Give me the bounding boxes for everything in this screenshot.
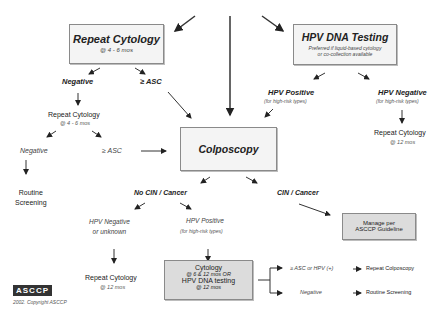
hpv-neg-unknown-line1: HPV Negative bbox=[89, 217, 130, 227]
negative-label-3: Negative bbox=[300, 289, 322, 295]
hpv-positive-sub: (for high-risk types) bbox=[264, 98, 307, 104]
manage-line2: ASCCP Guideline bbox=[343, 226, 415, 232]
repeat-cytology-title: Repeat Cytology bbox=[70, 33, 163, 45]
followup-line4: @ 12 mos bbox=[165, 284, 252, 290]
colposcopy-title: Colposcopy bbox=[181, 143, 276, 155]
manage-box: Manage per ASCCP Guideline bbox=[342, 213, 416, 240]
asc-or-hpv-label: ≥ ASC or HPV (+) bbox=[290, 265, 333, 271]
hpv-negative-sub: (for high-risk types) bbox=[376, 98, 419, 104]
asccp-logo: ASCCP bbox=[13, 285, 52, 296]
followup-line3: HPV DNA testing bbox=[165, 277, 252, 284]
asc-label-1: ≥ ASC bbox=[140, 77, 162, 86]
routine-line: Routine bbox=[15, 188, 47, 198]
routine-screening-1: Routine Screening bbox=[15, 188, 47, 208]
hpv-neg-unknown-line2: or unknown bbox=[89, 227, 130, 237]
followup-line1: Cytology bbox=[165, 264, 252, 271]
hpv-positive-label: HPV Positive bbox=[268, 88, 314, 97]
copyright-text: 2002. Copyright ASCCP bbox=[13, 299, 67, 305]
screening-line: Screening bbox=[15, 198, 47, 208]
cin-label: CIN / Cancer bbox=[277, 189, 319, 196]
repeat-cytology-2-sub: @ 4 - 6 mos bbox=[60, 120, 90, 126]
hpv-negative-label: HPV Negative bbox=[378, 88, 427, 97]
repeat-cytology-sub: @ 4 - 6 mos bbox=[70, 47, 163, 53]
repeat-cytology-12b-sub: @ 12 mos bbox=[100, 284, 125, 290]
colposcopy-box: Colposcopy bbox=[180, 127, 277, 171]
repeat-cytology-box: Repeat Cytology @ 4 - 6 mos bbox=[69, 24, 164, 64]
hpv-pos-2-label: HPV Positive bbox=[186, 217, 224, 224]
repeat-colposcopy-label: Repeat Colposcopy bbox=[366, 265, 414, 271]
hpv-dna-testing-box: HPV DNA Testing Preferred if liquid-base… bbox=[293, 24, 397, 65]
negative-label-1: Negative bbox=[62, 77, 93, 86]
repeat-cytology-12b-label: Repeat Cytology bbox=[85, 274, 137, 281]
hpv-dna-testing-sub2: or co-collection available bbox=[294, 51, 396, 57]
repeat-cytology-12-label: Repeat Cytology bbox=[374, 129, 426, 136]
hpv-dna-testing-title: HPV DNA Testing bbox=[294, 31, 396, 43]
hpv-pos-2-sub: (for high-risk types) bbox=[180, 228, 223, 234]
negative-label-2: Negative bbox=[20, 147, 48, 154]
followup-box: Cytology @ 6 & 12 mos OR HPV DNA testing… bbox=[164, 260, 253, 300]
hpv-neg-unknown: HPV Negative or unknown bbox=[89, 217, 130, 237]
asc-label-2: ≥ ASC bbox=[102, 147, 122, 154]
repeat-cytology-12-sub: @ 12 mos bbox=[390, 139, 415, 145]
repeat-cytology-2-label: Repeat Cytology bbox=[48, 111, 100, 118]
routine-screening-3: Routine Screening bbox=[366, 289, 411, 295]
no-cin-label: No CIN / Cancer bbox=[134, 189, 187, 196]
